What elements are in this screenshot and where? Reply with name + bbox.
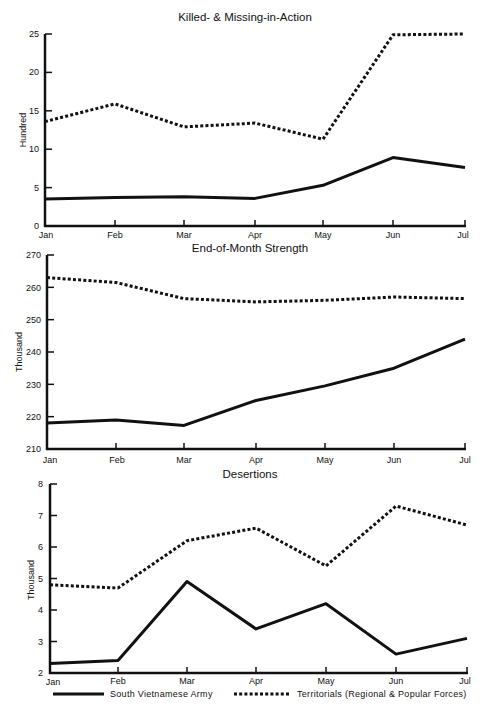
svg-text:Jul: Jul bbox=[459, 455, 471, 465]
svg-text:230: 230 bbox=[26, 380, 41, 390]
plot-lines bbox=[50, 506, 467, 663]
svg-text:7: 7 bbox=[38, 511, 43, 521]
y-tick-labels: 210 220 230 240 250 260 270 bbox=[26, 250, 41, 454]
y-tick: 25 bbox=[29, 29, 39, 39]
panel-desertions: Desertions Thousand 2 3 4 5 6 7 8 Jan Fe… bbox=[26, 468, 471, 687]
plot-lines bbox=[45, 34, 465, 199]
svg-text:Mar: Mar bbox=[176, 455, 192, 465]
svg-text:May: May bbox=[317, 676, 335, 686]
svg-text:270: 270 bbox=[26, 250, 41, 260]
svg-text:5: 5 bbox=[38, 574, 43, 584]
svg-text:Jun: Jun bbox=[389, 676, 404, 686]
svg-text:260: 260 bbox=[26, 283, 41, 293]
svg-text:240: 240 bbox=[26, 347, 41, 357]
panel-strength: End-of-Month Strength Thousand 210 220 2… bbox=[14, 242, 471, 465]
svg-text:Jan: Jan bbox=[46, 677, 61, 687]
svg-text:Apr: Apr bbox=[249, 676, 263, 686]
svg-text:8: 8 bbox=[38, 479, 43, 489]
y-tick: 15 bbox=[29, 106, 39, 116]
y-tick: 5 bbox=[34, 183, 39, 193]
panel-kia: Killed- & Missing-in-Action Hundred 0 5 … bbox=[18, 11, 469, 240]
svg-text:Apr: Apr bbox=[248, 230, 262, 240]
svg-text:May: May bbox=[316, 455, 334, 465]
panel-title: Killed- & Missing-in-Action bbox=[178, 11, 312, 23]
svg-text:Feb: Feb bbox=[110, 676, 126, 686]
y-tick-labels: 2 3 4 5 6 7 8 bbox=[38, 479, 43, 678]
svg-text:Feb: Feb bbox=[107, 230, 123, 240]
svg-text:220: 220 bbox=[26, 412, 41, 422]
svg-text:Jan: Jan bbox=[39, 230, 54, 240]
y-tick-labels: 0 5 10 15 20 25 bbox=[29, 29, 39, 231]
svg-text:6: 6 bbox=[38, 542, 43, 552]
y-axis-label: Hundred bbox=[18, 113, 28, 148]
y-axis-label: Thousand bbox=[26, 560, 36, 600]
svg-text:Jan: Jan bbox=[43, 455, 58, 465]
svg-text:3: 3 bbox=[38, 637, 43, 647]
legend: South Vietnamese Army Territorials (Regi… bbox=[53, 689, 467, 699]
svg-text:Jul: Jul bbox=[459, 676, 471, 686]
y-tick: 10 bbox=[29, 144, 39, 154]
svg-text:Mar: Mar bbox=[176, 230, 192, 240]
svg-text:2: 2 bbox=[38, 668, 43, 678]
svg-text:Jun: Jun bbox=[387, 455, 402, 465]
svg-text:210: 210 bbox=[26, 444, 41, 454]
axes bbox=[49, 484, 468, 674]
svg-text:Jun: Jun bbox=[386, 230, 401, 240]
series-line-territorials bbox=[47, 278, 465, 302]
y-axis-label: Thousand bbox=[14, 332, 24, 372]
x-tick-labels: Jan Feb Mar Apr May Jun Jul bbox=[46, 676, 471, 687]
x-tick-labels: Jan Feb Mar Apr May Jun Jul bbox=[43, 455, 471, 465]
panel-title: Desertions bbox=[223, 468, 278, 480]
legend-label-sva: South Vietnamese Army bbox=[110, 689, 213, 699]
series-line-sva bbox=[50, 582, 467, 664]
svg-text:Feb: Feb bbox=[109, 455, 125, 465]
svg-text:250: 250 bbox=[26, 315, 41, 325]
svg-text:Mar: Mar bbox=[179, 676, 195, 686]
series-line-territorials bbox=[45, 34, 465, 139]
plot-lines bbox=[47, 278, 465, 426]
y-tick: 20 bbox=[29, 67, 39, 77]
svg-text:4: 4 bbox=[38, 605, 43, 615]
legend-label-territorials: Territorials (Regional & Popular Forces) bbox=[297, 689, 467, 699]
svg-text:Jul: Jul bbox=[457, 230, 469, 240]
series-line-sva bbox=[47, 339, 465, 425]
x-tick-labels: Jan Feb Mar Apr May Jun Jul bbox=[39, 230, 469, 240]
chart-figure: Killed- & Missing-in-Action Hundred 0 5 … bbox=[0, 0, 487, 712]
panel-title: End-of-Month Strength bbox=[192, 242, 308, 254]
svg-text:May: May bbox=[314, 230, 332, 240]
series-line-sva bbox=[45, 158, 465, 200]
series-line-territorials bbox=[50, 506, 467, 588]
svg-text:Apr: Apr bbox=[249, 455, 263, 465]
